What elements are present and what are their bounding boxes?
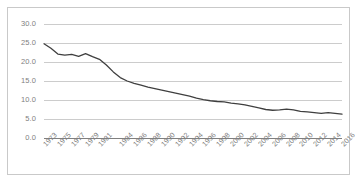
plot-area: 0.05.010.015.020.025.030.0 1973197519771…	[8, 8, 351, 176]
chart-svg	[8, 8, 351, 176]
gridlines	[44, 24, 342, 138]
chart-frame: 0.05.010.015.020.025.030.0 1973197519771…	[7, 7, 350, 175]
data-series-line	[44, 44, 342, 114]
